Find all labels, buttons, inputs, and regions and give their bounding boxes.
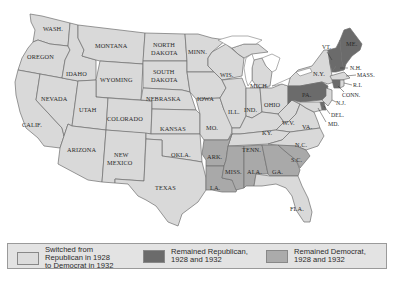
- label-nj: N.J.: [336, 100, 346, 106]
- label-kansas: KANSAS: [160, 125, 186, 132]
- legend-switched-line-3: to Democrat in 1932: [45, 262, 113, 270]
- label-nebraska: NEBRASKA: [146, 95, 181, 102]
- label-ala: ALA.: [247, 168, 262, 175]
- label-north-dakota-2: DAKOTA: [151, 49, 178, 56]
- label-wis: WIS.: [220, 71, 234, 78]
- label-iowa: IOWA: [197, 95, 214, 102]
- label-ny: N.Y.: [313, 70, 325, 77]
- label-me: ME.: [346, 40, 358, 47]
- label-ind: IND.: [244, 106, 257, 113]
- label-wash: WASH.: [43, 25, 63, 32]
- label-md: MD.: [328, 121, 340, 127]
- state-fla: [254, 174, 312, 222]
- legend-item-remained-democrat: Remained Democrat, 1928 and 1932: [266, 248, 366, 264]
- leader-ri: [344, 83, 352, 85]
- legend-republican-line-2: 1928 and 1932: [171, 256, 248, 264]
- label-colorado: COLORADO: [107, 115, 143, 122]
- label-okla: OKLA.: [171, 151, 191, 158]
- label-ark: ARK.: [207, 153, 223, 160]
- label-arizona: ARIZONA: [67, 146, 96, 153]
- swatch-switched: [17, 252, 39, 265]
- label-new-mexico-2: MEXICO: [107, 159, 133, 166]
- label-pa: PA.: [302, 91, 312, 98]
- state-ri: [340, 80, 344, 88]
- label-ill: ILL.: [228, 108, 240, 115]
- label-texas: TEXAS: [155, 184, 176, 191]
- label-va: VA.: [302, 123, 312, 130]
- label-fla: FLA.: [290, 205, 304, 212]
- state-me: [340, 28, 362, 70]
- label-tenn: TENN.: [242, 146, 261, 153]
- label-vt: VT.: [322, 44, 331, 50]
- label-miss: MISS.: [225, 168, 242, 175]
- label-del: DEL.: [331, 112, 345, 118]
- label-la: LA.: [210, 184, 221, 191]
- label-ky: KY.: [262, 129, 272, 136]
- label-oregon: OREGON: [27, 53, 54, 60]
- label-nh: N.H.: [350, 65, 362, 71]
- label-mo: MO.: [206, 124, 218, 131]
- state-arizona: [58, 124, 106, 182]
- legend-democrat-line-2: 1928 and 1932: [294, 256, 366, 264]
- label-montana: MONTANA: [95, 42, 128, 49]
- legend-item-switched: Switched from Republican in 1928 to Demo…: [17, 246, 113, 271]
- label-calif: CALIF.: [22, 121, 42, 128]
- state-ny: [288, 50, 334, 86]
- swatch-remained-democrat: [266, 250, 288, 263]
- label-wyoming: WYOMING: [100, 76, 133, 83]
- label-north-dakota-1: NORTH: [153, 41, 175, 48]
- swatch-remained-republican: [143, 250, 165, 263]
- label-sc: S.C.: [291, 156, 303, 163]
- label-south-dakota-2: DAKOTA: [151, 76, 178, 83]
- label-wv: W.V.: [282, 119, 295, 126]
- label-ga: GA.: [272, 168, 283, 175]
- label-utah: UTAH: [79, 106, 97, 113]
- label-new-mexico-1: NEW: [114, 151, 129, 158]
- map-legend: Switched from Republican in 1928 to Demo…: [7, 243, 387, 269]
- label-conn: CONN.: [342, 92, 361, 98]
- label-nevada: NEVADA: [41, 95, 68, 102]
- label-ri: R.I.: [353, 82, 363, 88]
- label-south-dakota-1: SOUTH: [153, 68, 175, 75]
- label-nc: N.C.: [295, 141, 308, 148]
- legend-item-remained-republican: Remained Republican, 1928 and 1932: [143, 248, 248, 264]
- label-ohio: OHIO: [264, 101, 280, 108]
- label-minn: MINN.: [188, 48, 207, 55]
- label-mass: MASS.: [357, 72, 375, 78]
- label-mich: MICH.: [250, 82, 269, 89]
- label-idaho: IDAHO: [66, 70, 87, 77]
